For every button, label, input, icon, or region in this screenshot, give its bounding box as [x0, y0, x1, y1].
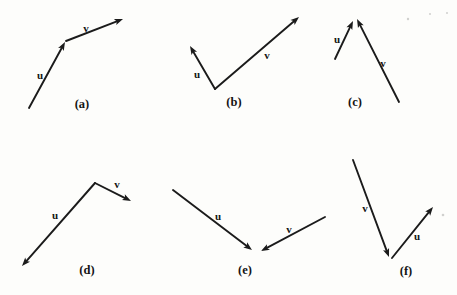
vector-diagrams-figure: uv(a)uv(b)uv(c)uv(d)uv(e)vu(f)	[0, 0, 457, 295]
vector-u-line-d	[26, 183, 95, 261]
vector-v-line-f	[353, 160, 387, 251]
vector-u-label-b: u	[194, 68, 200, 80]
vector-v-label-d: v	[114, 178, 120, 190]
vector-u-label-c: u	[334, 33, 340, 45]
vector-v-label-e: v	[286, 223, 292, 235]
panel-c: uv(c)	[334, 19, 399, 109]
panel-b: uv(b)	[190, 17, 299, 109]
panel-caption-b: (b)	[226, 95, 241, 109]
panel-caption-c: (c)	[348, 95, 362, 109]
figure-canvas: uv(a)uv(b)uv(c)uv(d)uv(e)vu(f)	[0, 0, 457, 295]
vector-v-line-d	[95, 183, 125, 198]
panel-d: uv(d)	[22, 178, 131, 277]
vector-u-label-a: u	[37, 69, 43, 81]
scan-speck-3	[442, 214, 445, 217]
panel-caption-f: (f)	[400, 264, 413, 278]
vector-v-line-a	[66, 21, 117, 41]
vector-u-line-f	[392, 212, 429, 258]
panel-a: uv(a)	[29, 19, 123, 111]
vector-v-label-f: v	[362, 202, 368, 214]
vector-v-label-a: v	[83, 22, 89, 34]
scan-speck-1	[429, 13, 431, 15]
vector-v-label-b: v	[264, 49, 270, 61]
panel-caption-d: (d)	[79, 263, 94, 277]
panel-f: vu(f)	[353, 160, 433, 278]
vector-u-line-e	[173, 190, 247, 246]
vector-v-line-b	[215, 21, 294, 89]
panel-caption-a: (a)	[75, 97, 90, 111]
vector-u-line-a	[29, 48, 62, 108]
vector-v-line-e	[267, 217, 325, 248]
panel-e: uv(e)	[173, 190, 325, 277]
scan-speck-0	[407, 18, 409, 20]
scan-speck-2	[446, 12, 448, 14]
vector-u-label-e: u	[215, 210, 221, 222]
vector-u-label-f: u	[414, 230, 420, 242]
panel-caption-e: (e)	[238, 263, 252, 277]
vector-v-label-c: v	[380, 57, 386, 69]
vector-u-label-d: u	[52, 209, 58, 221]
